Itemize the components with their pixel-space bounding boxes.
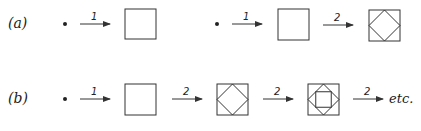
square <box>278 9 309 40</box>
arrow-label: 2 <box>364 86 370 97</box>
arrow-label: 1 <box>243 11 249 22</box>
arrow-label: 2 <box>334 12 340 23</box>
arrow-label: 2 <box>183 86 189 97</box>
arrow-label: 2 <box>274 86 280 97</box>
arrow-label: 1 <box>91 86 97 97</box>
arrow-label: 1 <box>91 11 97 22</box>
point-dot <box>63 22 67 26</box>
point-dot <box>215 22 219 26</box>
nested-squares <box>308 84 339 115</box>
point-dot <box>63 97 67 101</box>
square <box>125 84 156 115</box>
square-with-diamond <box>217 84 248 115</box>
square <box>125 9 156 39</box>
etc-text: etc. <box>389 91 413 106</box>
square-with-diamond <box>369 10 400 41</box>
diagram-canvas: 1 1 2 1 2 2 2 <box>0 0 421 131</box>
